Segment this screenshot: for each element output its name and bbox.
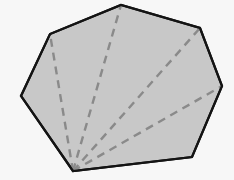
polygon-triangulation-figure [0,0,234,180]
figure-container [0,0,234,180]
